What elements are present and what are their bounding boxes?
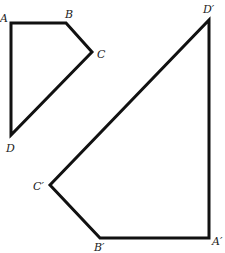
label-c-prime: C′ <box>33 180 44 193</box>
label-b-prime: B′ <box>93 241 105 253</box>
quadrilateral-abcd <box>11 23 92 135</box>
label-c: C <box>97 48 106 61</box>
label-d: D <box>5 142 15 155</box>
label-a: A <box>0 12 8 25</box>
diagram-canvas: A B C D A′ B′ C′ D′ <box>0 0 225 253</box>
label-a-prime: A′ <box>211 235 223 248</box>
quadrilateral-a-prime-b-prime-c-prime-d-prime <box>50 20 209 238</box>
label-d-prime: D′ <box>202 3 215 16</box>
label-b: B <box>64 8 73 21</box>
